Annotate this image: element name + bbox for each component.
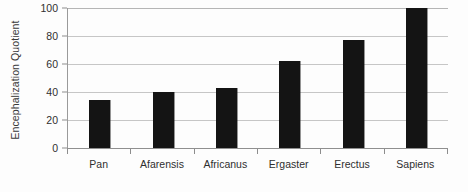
bar-erectus: [343, 40, 364, 148]
y-axis-tick-labels: 020406080100: [30, 8, 62, 148]
x-tick-label-ergaster: Ergaster: [269, 158, 309, 170]
bar-africanus: [216, 88, 237, 148]
bar-sapiens: [406, 8, 427, 148]
x-axis-tick-labels: PanAfarensisAfricanusErgasterErectusSapi…: [67, 158, 447, 178]
y-tick-label-20: 20: [46, 114, 58, 126]
y-axis-title-text: Encephalization Quotient: [9, 20, 21, 139]
y-tick-mark-80: [62, 36, 67, 37]
y-tick-label-100: 100: [40, 2, 58, 14]
bar-ergaster: [279, 61, 300, 148]
bar-afarensis: [153, 92, 174, 148]
x-tick-mark-2: [194, 149, 195, 154]
x-tick-mark-4: [320, 149, 321, 154]
y-tick-mark-100: [62, 8, 67, 9]
plot-area: [67, 8, 447, 148]
y-tick-mark-40: [62, 92, 67, 93]
bar-chart-figure: Encephalization Quotient 020406080100 Pa…: [0, 0, 468, 192]
x-tick-mark-3: [257, 149, 258, 154]
y-tick-label-60: 60: [46, 58, 58, 70]
y-tick-label-0: 0: [52, 142, 58, 154]
y-tick-label-40: 40: [46, 86, 58, 98]
y-axis-title: Encephalization Quotient: [0, 0, 30, 160]
x-tick-mark-1: [130, 149, 131, 154]
y-tick-mark-60: [62, 64, 67, 65]
x-tick-label-sapiens: Sapiens: [396, 158, 434, 170]
y-tick-label-80: 80: [46, 30, 58, 42]
x-tick-label-erectus: Erectus: [334, 158, 370, 170]
bars-group: [68, 8, 448, 148]
x-tick-mark-5: [384, 149, 385, 154]
y-tick-mark-20: [62, 120, 67, 121]
x-tick-label-afarensis: Afarensis: [140, 158, 184, 170]
x-tick-label-pan: Pan: [89, 158, 108, 170]
x-tick-label-africanus: Africanus: [203, 158, 247, 170]
x-tick-mark-0: [67, 149, 68, 154]
x-tick-mark-6: [447, 149, 448, 154]
bar-pan: [89, 100, 110, 148]
